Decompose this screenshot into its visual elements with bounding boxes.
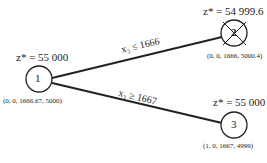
node-3-label: 3 bbox=[231, 118, 237, 130]
node-1-z: z* = 55 000 bbox=[16, 51, 68, 63]
node-3-z: z* = 55 000 bbox=[213, 96, 265, 108]
node-2-label: 2 bbox=[231, 26, 237, 38]
node-2-solution: (0, 0, 1666, 5000.4) bbox=[207, 52, 262, 60]
edge-1-3 bbox=[52, 83, 222, 123]
node-1-label: 1 bbox=[35, 72, 41, 84]
node-1-solution: (0, 0, 1666.67, 5000) bbox=[3, 97, 62, 105]
node-3-solution: (1, 0, 1667, 4999) bbox=[203, 142, 253, 150]
node-2-z: z* = 54 999.6 bbox=[203, 5, 264, 17]
